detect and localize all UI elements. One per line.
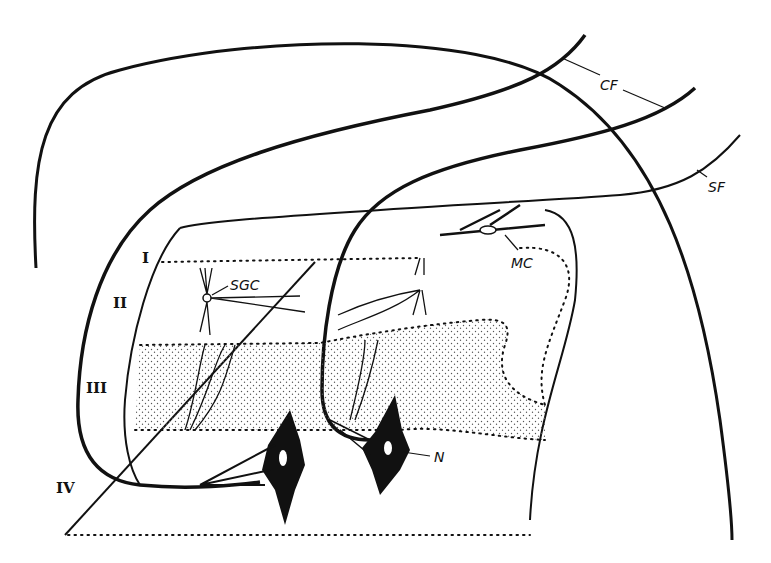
sf-leader — [697, 170, 707, 177]
label-layer-3: III — [86, 379, 107, 397]
right-dotted-boundary — [520, 248, 569, 405]
label-n: N — [434, 449, 445, 465]
cf-leader-1 — [562, 58, 600, 75]
label-layer-2: II — [113, 294, 127, 312]
cf-leader-2 — [623, 90, 665, 108]
layer-1-boundary — [162, 258, 420, 262]
label-sf: SF — [708, 179, 726, 195]
label-sgc: SGC — [230, 277, 260, 293]
diagram-canvas: I II III IV CF SF SGC MC N — [0, 0, 771, 563]
label-cf: CF — [600, 77, 619, 93]
mc-leader — [505, 235, 518, 250]
sgc-cell-body — [203, 294, 211, 302]
label-layer-1: I — [142, 249, 149, 267]
superficial-fiber — [180, 135, 740, 228]
granular-layer-stipple — [135, 320, 545, 440]
right-cell-dendrites — [338, 258, 426, 330]
mc-cell-body — [480, 226, 496, 234]
sgc-leader — [212, 286, 228, 295]
neuron-right-nucleus — [384, 441, 392, 455]
neuron-left-nucleus — [279, 450, 287, 466]
label-layer-4: IV — [56, 479, 75, 497]
cortex-right-boundary — [530, 210, 577, 520]
label-mc: MC — [511, 255, 533, 271]
